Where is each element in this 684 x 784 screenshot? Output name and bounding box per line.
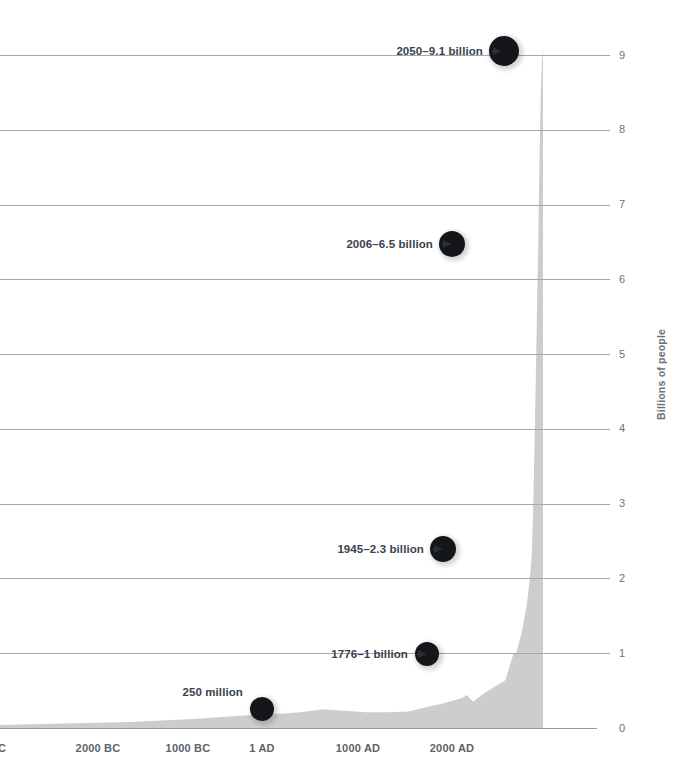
y-axis-tick-3: 3 bbox=[619, 498, 625, 509]
gridline-5 bbox=[0, 354, 610, 355]
axis-baseline bbox=[0, 728, 597, 729]
population-area-plot bbox=[0, 0, 684, 784]
annotation-label: 2006–6.5 billion bbox=[346, 238, 433, 250]
data-point-marker-250-million[interactable] bbox=[250, 697, 274, 721]
annotation-label: 2050–9.1 billion bbox=[396, 45, 483, 57]
ann-2050: 2050–9.1 billion bbox=[396, 45, 500, 57]
annotation-arrow bbox=[433, 549, 441, 550]
x-axis-tick-2000-bc: 2000 BC bbox=[76, 743, 121, 754]
annotation-label: 1776–1 billion bbox=[331, 648, 408, 660]
y-axis-tick-2: 2 bbox=[619, 573, 625, 584]
gridline-2 bbox=[0, 578, 610, 579]
gridline-4 bbox=[0, 429, 610, 430]
ann-1945: 1945–2.3 billion bbox=[337, 543, 441, 555]
gridline-8 bbox=[0, 130, 610, 131]
ann-250-million: 250 million bbox=[182, 686, 243, 698]
x-axis-tick-c: C bbox=[0, 743, 6, 754]
y-axis-tick-7: 7 bbox=[619, 199, 625, 210]
x-axis-tick-1-ad: 1 AD bbox=[249, 743, 274, 754]
population-area-fill bbox=[0, 48, 543, 728]
x-axis-tick-1000-ad: 1000 AD bbox=[336, 743, 380, 754]
ann-1776: 1776–1 billion bbox=[331, 648, 425, 660]
y-axis-tick-8: 8 bbox=[619, 124, 625, 135]
gridline-7 bbox=[0, 205, 610, 206]
annotation-arrow bbox=[492, 51, 500, 52]
y-axis-tick-0: 0 bbox=[619, 723, 625, 734]
y-axis-tick-5: 5 bbox=[619, 349, 625, 360]
gridline-6 bbox=[0, 279, 610, 280]
gridline-1 bbox=[0, 653, 610, 654]
y-axis-tick-1: 1 bbox=[619, 648, 625, 659]
annotation-arrow bbox=[442, 244, 450, 245]
x-axis-tick-2000-ad: 2000 AD bbox=[430, 743, 474, 754]
y-axis-title: Billions of people bbox=[655, 329, 667, 420]
gridline-3 bbox=[0, 504, 610, 505]
world-population-area-chart: 0123456789 C2000 BC1000 BC1 AD1000 AD200… bbox=[0, 0, 684, 784]
annotation-arrow bbox=[417, 654, 425, 655]
ann-2006: 2006–6.5 billion bbox=[346, 238, 450, 250]
y-axis-tick-6: 6 bbox=[619, 274, 625, 285]
x-axis-tick-1000-bc: 1000 BC bbox=[166, 743, 211, 754]
annotation-label: 1945–2.3 billion bbox=[337, 543, 424, 555]
annotation-label: 250 million bbox=[182, 686, 243, 698]
y-axis-tick-9: 9 bbox=[619, 50, 625, 61]
y-axis-tick-4: 4 bbox=[619, 423, 625, 434]
